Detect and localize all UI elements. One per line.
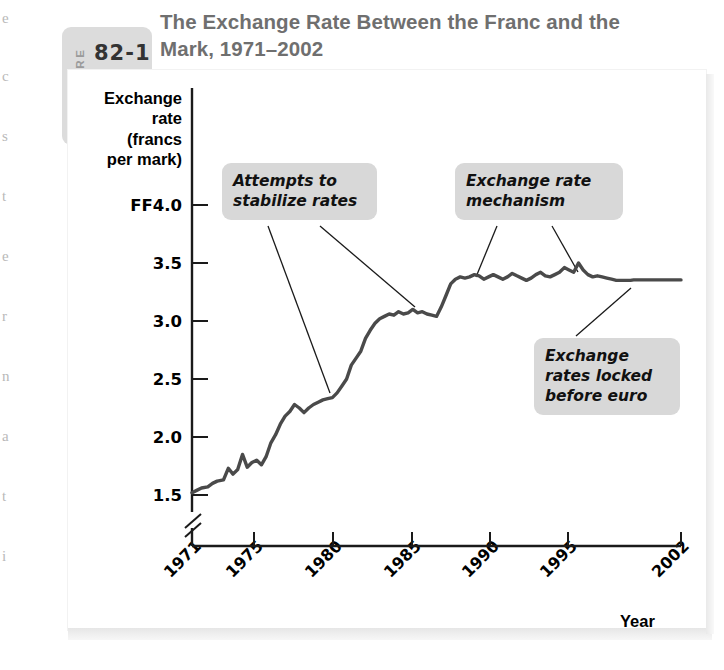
annotation-erm-line-1: Exchange rate bbox=[466, 171, 612, 191]
annotation-exchange-rates-locked-before-euro: Exchange rates locked before euro bbox=[534, 338, 680, 415]
annotation-exchange-rate-mechanism: Exchange rate mechanism bbox=[455, 163, 623, 220]
annotation-stabilize-line-2: stabilize rates bbox=[233, 191, 366, 211]
annotation-locked-line-1: Exchange bbox=[545, 346, 669, 366]
leader-line-locked bbox=[576, 288, 631, 336]
annotation-attempts-to-stabilize-rates: Attempts to stabilize rates bbox=[222, 163, 377, 220]
leader-line-stabilize-a bbox=[268, 226, 330, 393]
leader-line-erm-b bbox=[552, 226, 578, 272]
annotation-stabilize-line-1: Attempts to bbox=[233, 171, 366, 191]
annotation-locked-line-2: rates locked bbox=[545, 366, 669, 386]
annotation-erm-line-2: mechanism bbox=[466, 191, 612, 211]
chart-plot-area bbox=[0, 0, 724, 670]
leader-line-erm-a bbox=[476, 226, 497, 277]
leader-line-stabilize-b bbox=[320, 226, 415, 307]
annotation-locked-line-3: before euro bbox=[545, 386, 669, 406]
